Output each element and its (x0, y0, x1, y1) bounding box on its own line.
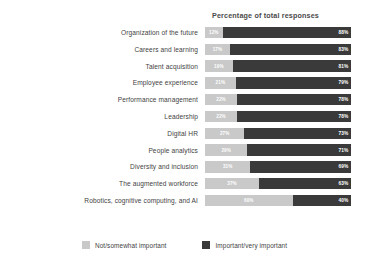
bar-value-label: 12% (209, 30, 219, 35)
bar-value-label: 40% (339, 198, 349, 203)
bar-value-label: 21% (216, 80, 226, 85)
chart-row: People analytics29%71% (0, 143, 365, 156)
bar-segment: 29% (205, 144, 247, 155)
bar-value-label: 29% (221, 148, 231, 153)
bar-segment: 78% (237, 111, 351, 122)
bar-value-label: 22% (216, 97, 226, 102)
legend-item[interactable]: Important/very important (202, 241, 287, 249)
bar-segment: 81% (233, 60, 351, 71)
bar-track: 12%88% (205, 27, 351, 38)
chart-row: Performance management22%78% (0, 93, 365, 106)
category-label: Diversity and inclusion (0, 163, 205, 170)
bar-segment: 31% (205, 161, 250, 172)
category-label: Talent acquisition (0, 63, 205, 70)
bar-value-label: 60% (244, 198, 254, 203)
bar-segment: 69% (250, 161, 351, 172)
bar-value-label: 71% (339, 148, 349, 153)
bar-track: 21%79% (205, 77, 351, 88)
bar-segment: 60% (205, 195, 293, 206)
bar-track: 22%78% (205, 94, 351, 105)
bar-segment: 17% (205, 44, 230, 55)
bar-segment: 21% (205, 77, 236, 88)
bar-value-label: 78% (339, 97, 349, 102)
category-label: The augmented workforce (0, 180, 205, 187)
bar-segment: 79% (236, 77, 351, 88)
bar-value-label: 37% (227, 181, 237, 186)
category-label: People analytics (0, 147, 205, 154)
category-label: Digital HR (0, 130, 205, 137)
legend-label: Important/very important (215, 242, 287, 249)
bar-segment: 12% (205, 27, 223, 38)
chart-legend: Not/somewhat importantImportant/very imp… (82, 241, 323, 249)
bar-segment: 37% (205, 178, 259, 189)
bar-track: 27%73% (205, 128, 351, 139)
bar-segment: 78% (237, 94, 351, 105)
bar-value-label: 69% (339, 164, 349, 169)
bar-value-label: 63% (339, 181, 349, 186)
bar-segment: 88% (223, 27, 351, 38)
bar-value-label: 17% (213, 47, 223, 52)
bar-segment: 27% (205, 128, 244, 139)
category-label: Leadership (0, 113, 205, 120)
bar-segment: 71% (247, 144, 351, 155)
bar-track: 17%83% (205, 44, 351, 55)
bar-value-label: 79% (339, 80, 349, 85)
chart-row: Talent acquisition19%81% (0, 60, 365, 73)
bar-value-label: 78% (339, 114, 349, 119)
bar-track: 60%40% (205, 195, 351, 206)
category-label: Employee experience (0, 79, 205, 86)
bar-segment: 22% (205, 111, 237, 122)
bar-value-label: 22% (216, 114, 226, 119)
bar-segment: 83% (230, 44, 351, 55)
bar-value-label: 81% (339, 64, 349, 69)
bar-segment: 22% (205, 94, 237, 105)
category-label: Organization of the future (0, 29, 205, 36)
bar-track: 31%69% (205, 161, 351, 172)
category-label: Robotics, cognitive computing, and AI (0, 197, 205, 204)
bar-track: 37%63% (205, 178, 351, 189)
legend-label: Not/somewhat important (95, 242, 166, 249)
bar-value-label: 73% (339, 131, 349, 136)
legend-swatch-icon (202, 241, 210, 249)
chart-row: The augmented workforce37%63% (0, 177, 365, 190)
category-label: Performance management (0, 96, 205, 103)
chart-row: Diversity and inclusion31%69% (0, 160, 365, 173)
chart-title: Percentage of total responses (212, 11, 319, 20)
legend-swatch-icon (82, 241, 90, 249)
chart-row: Organization of the future12%88% (0, 26, 365, 39)
category-label: Careers and learning (0, 46, 205, 53)
chart-row: Employee experience21%79% (0, 76, 365, 89)
bar-value-label: 83% (339, 47, 349, 52)
bar-segment: 73% (244, 128, 351, 139)
chart-plot-area: Organization of the future12%88%Careers … (0, 26, 365, 211)
chart-row: Digital HR27%73% (0, 127, 365, 140)
legend-item[interactable]: Not/somewhat important (82, 241, 166, 249)
bar-segment: 19% (205, 60, 233, 71)
bar-segment: 40% (293, 195, 351, 206)
bar-value-label: 19% (214, 64, 224, 69)
bar-track: 29%71% (205, 144, 351, 155)
bar-segment: 63% (259, 178, 351, 189)
bar-value-label: 27% (220, 131, 230, 136)
bar-value-label: 88% (339, 30, 349, 35)
chart-row: Careers and learning17%83% (0, 43, 365, 56)
bar-track: 19%81% (205, 60, 351, 71)
bar-value-label: 31% (223, 164, 233, 169)
bar-track: 22%78% (205, 111, 351, 122)
stacked-bar-chart: Percentage of total responses Organizati… (0, 0, 365, 264)
chart-row: Robotics, cognitive computing, and AI60%… (0, 194, 365, 207)
chart-row: Leadership22%78% (0, 110, 365, 123)
